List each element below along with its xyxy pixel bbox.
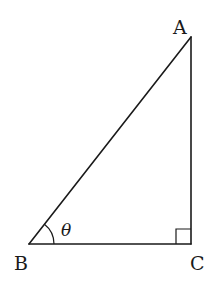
vertex-label-a: A [172, 16, 187, 38]
vertex-label-c: C [190, 252, 205, 274]
vertex-label-b: B [14, 252, 28, 274]
right-angle-marker [176, 229, 191, 244]
triangle [29, 37, 191, 244]
angle-theta-arc [44, 224, 54, 244]
right-triangle-diagram: A B C θ [0, 0, 215, 290]
side-ab [29, 37, 191, 244]
angle-label-theta: θ [61, 220, 71, 240]
